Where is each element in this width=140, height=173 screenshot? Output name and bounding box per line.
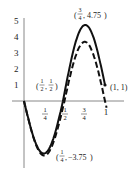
y-tick-5: 5 bbox=[14, 16, 19, 26]
svg-text:,: , bbox=[45, 82, 47, 91]
svg-text:(: ( bbox=[56, 153, 59, 162]
svg-text:): ) bbox=[90, 153, 93, 162]
x-tick-1: 1 bbox=[104, 107, 109, 117]
svg-text:4: 4 bbox=[82, 114, 86, 121]
svg-text:1: 1 bbox=[61, 149, 64, 155]
svg-text:4: 4 bbox=[61, 157, 64, 163]
svg-text:−3.75: −3.75 bbox=[68, 153, 87, 162]
svg-text:4.75: 4.75 bbox=[87, 11, 101, 20]
svg-text:4: 4 bbox=[79, 15, 82, 21]
svg-text:): ) bbox=[55, 82, 58, 91]
svg-text:): ) bbox=[104, 11, 107, 20]
y-tick-3: 3 bbox=[14, 48, 19, 58]
svg-text:,: , bbox=[65, 153, 67, 162]
svg-text:2: 2 bbox=[63, 114, 66, 121]
y-tick-4: 4 bbox=[14, 32, 19, 42]
y-tick-2: 2 bbox=[14, 64, 19, 74]
svg-text:2: 2 bbox=[50, 86, 53, 92]
annotation-min: ( 1 4 , −3.75 ) bbox=[56, 149, 93, 163]
svg-text:(: ( bbox=[74, 11, 77, 20]
x-tick-labels: 1 4 1 2 3 4 1 bbox=[42, 106, 108, 121]
annotation-max: ( 3 4 , 4.75 ) bbox=[74, 7, 107, 21]
dashed-curve bbox=[24, 42, 107, 156]
svg-text:(: ( bbox=[36, 82, 39, 91]
svg-text:2: 2 bbox=[41, 86, 44, 92]
svg-text:,: , bbox=[83, 11, 85, 20]
svg-text:1: 1 bbox=[41, 78, 44, 84]
chart-canvas: 5 4 3 2 1 1 4 1 2 3 4 1 ( 3 4 , 4.7 bbox=[0, 0, 140, 173]
x-tick-three-quarter: 3 4 bbox=[81, 106, 87, 121]
y-tick-labels: 5 4 3 2 1 bbox=[14, 16, 19, 90]
svg-text:1: 1 bbox=[43, 106, 46, 113]
x-tick-quarter: 1 4 bbox=[42, 106, 48, 121]
svg-text:1: 1 bbox=[50, 78, 53, 84]
y-tick-1: 1 bbox=[14, 80, 19, 90]
annotation-end: (1, 1) bbox=[110, 83, 128, 92]
svg-text:3: 3 bbox=[82, 106, 85, 113]
annotation-mid: ( 1 2 , 1 2 ) bbox=[36, 78, 58, 92]
svg-text:4: 4 bbox=[43, 114, 47, 121]
svg-text:3: 3 bbox=[79, 7, 82, 13]
endpoint-dot bbox=[103, 83, 106, 86]
